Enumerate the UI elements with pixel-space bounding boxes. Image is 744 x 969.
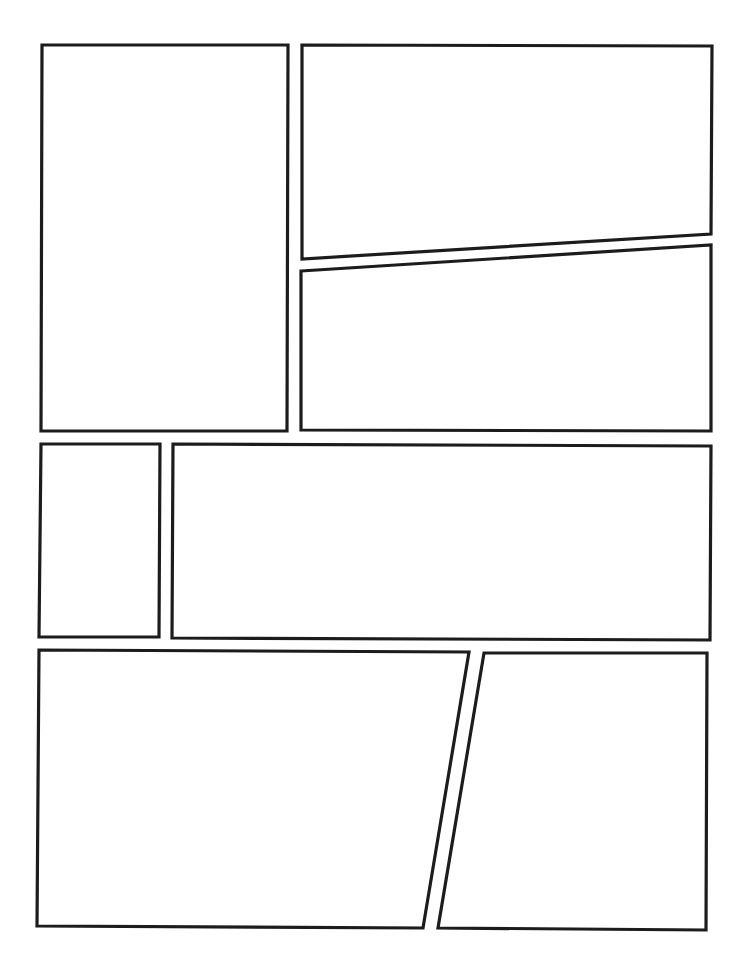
comic-panel-2[interactable] <box>302 45 712 259</box>
comic-panel-3[interactable] <box>301 245 711 431</box>
comic-panel-5[interactable] <box>172 444 711 640</box>
panel-layout <box>0 0 744 969</box>
comic-panel-1[interactable] <box>41 45 288 431</box>
comic-page <box>0 0 744 969</box>
comic-panel-4[interactable] <box>39 444 160 637</box>
comic-panel-7[interactable] <box>438 653 707 930</box>
comic-panel-6[interactable] <box>37 650 469 928</box>
